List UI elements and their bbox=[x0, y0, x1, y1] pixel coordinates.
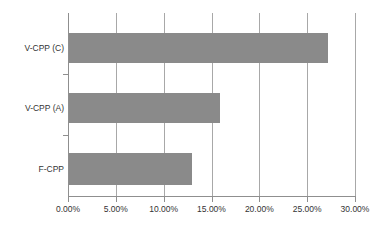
plot-area bbox=[68, 13, 355, 197]
bar-v-cpp-a bbox=[68, 93, 220, 123]
bar-f-cpp bbox=[68, 153, 192, 185]
x-axis-tick-label-5: 25.00% bbox=[293, 204, 322, 214]
x-axis-tick-20 bbox=[259, 197, 260, 202]
x-axis-tick-30 bbox=[355, 197, 356, 202]
x-axis-tick-label-2: 10.00% bbox=[149, 204, 178, 214]
x-axis-tick-label-1: 5.00% bbox=[104, 204, 128, 214]
y-axis-label-2: F-CPP bbox=[39, 164, 65, 174]
bar-v-cpp-c bbox=[68, 33, 328, 63]
x-axis-tick-0 bbox=[68, 197, 69, 202]
x-axis-tick-label-3: 15.00% bbox=[197, 204, 226, 214]
y-axis-line bbox=[68, 13, 69, 197]
x-axis-tick-label-6: 30.00% bbox=[341, 204, 370, 214]
x-axis-tick-5 bbox=[116, 197, 117, 202]
y-axis-tick-1 bbox=[63, 74, 68, 75]
x-axis-tick-label-0: 0.00% bbox=[56, 204, 80, 214]
y-axis-label-1: V-CPP (A) bbox=[25, 103, 64, 113]
x-axis-tick-15 bbox=[212, 197, 213, 202]
x-axis-tick-25 bbox=[307, 197, 308, 202]
x-axis-tick-10 bbox=[164, 197, 165, 202]
y-axis-tick-2 bbox=[63, 135, 68, 136]
bar-chart: V-CPP (C) V-CPP (A) F-CPP 0.00% 5.00% 10… bbox=[0, 0, 387, 238]
y-axis-label-0: V-CPP (C) bbox=[24, 43, 64, 53]
x-axis-tick-label-4: 20.00% bbox=[245, 204, 274, 214]
gridline-30 bbox=[355, 13, 356, 197]
